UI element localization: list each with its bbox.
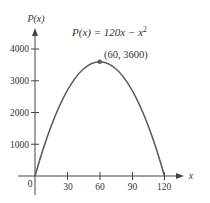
vertex-label: (60, 3600) bbox=[104, 49, 148, 61]
profit-curve bbox=[35, 62, 165, 176]
profit-function-chart: 1000 2000 3000 4000 30 60 90 120 0 P(x) … bbox=[0, 0, 210, 203]
x-axis-arrow-icon bbox=[176, 173, 184, 179]
x-tick-label: 30 bbox=[63, 182, 73, 192]
vertex-point bbox=[98, 60, 102, 64]
x-tick-label: 90 bbox=[128, 182, 138, 192]
x-tick-labels: 30 60 90 120 0 bbox=[28, 179, 172, 192]
y-tick-label: 4000 bbox=[10, 44, 29, 54]
y-tick-labels: 1000 2000 3000 4000 bbox=[10, 44, 29, 149]
function-label: P(x) = 120x − x2 bbox=[71, 25, 147, 39]
x-tick-label: 60 bbox=[95, 182, 105, 192]
x-tick-label: 120 bbox=[157, 182, 172, 192]
origin-label: 0 bbox=[28, 179, 33, 189]
y-axis-arrow-icon bbox=[32, 28, 38, 36]
y-tick-label: 2000 bbox=[10, 108, 29, 118]
axes bbox=[18, 28, 184, 195]
y-tick-label: 1000 bbox=[10, 140, 29, 150]
x-axis-label: x bbox=[188, 170, 194, 181]
y-axis-label: P(x) bbox=[26, 13, 45, 25]
y-tick-label: 3000 bbox=[10, 76, 29, 86]
